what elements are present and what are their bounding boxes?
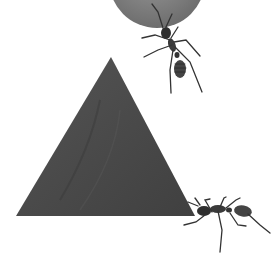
- illustration-canvas: [0, 0, 280, 272]
- dark-triangle: [16, 57, 195, 216]
- grey-circle: [109, 0, 205, 28]
- illustration-scene: Two ants carrying geometric shapes: a gr…: [0, 0, 280, 272]
- bottom-ant-icon: [184, 197, 270, 252]
